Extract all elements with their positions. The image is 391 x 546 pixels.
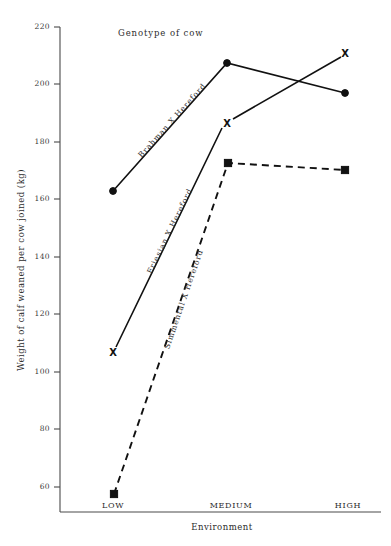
data-point-brahman-low xyxy=(110,188,117,195)
series-label-brahman: Brahman X Hereford xyxy=(136,81,207,159)
series-simmental-x-hereford: Simmental X Hereford xyxy=(110,159,348,497)
y-tick-labels: 220 200 180 160 140 120 100 80 60 xyxy=(34,22,50,491)
chart-figure: 220 200 180 160 140 120 100 80 60 Weight… xyxy=(0,0,391,546)
series-line-simmental xyxy=(114,163,345,494)
y-tick-label-140: 140 xyxy=(34,252,50,261)
x-tick-label-medium: MEDIUM xyxy=(210,501,253,510)
y-tick-label-100: 100 xyxy=(34,367,50,376)
data-point-brahman-high xyxy=(342,90,349,97)
y-tick-label-180: 180 xyxy=(34,137,50,146)
x-tick-label-low: LOW xyxy=(102,501,124,510)
data-point-friesian-high: X xyxy=(341,48,349,59)
data-point-simmental-low xyxy=(110,490,117,497)
data-point-brahman-medium xyxy=(224,60,231,67)
series-friesian-x-hereford: X X X Friesian X Hereford xyxy=(109,48,349,358)
series-label-simmental: Simmental X Hereford xyxy=(162,248,205,350)
data-point-friesian-low: X xyxy=(109,347,117,358)
data-point-simmental-medium xyxy=(224,159,231,166)
y-tick-label-80: 80 xyxy=(40,424,50,433)
y-tick-label-200: 200 xyxy=(34,79,50,88)
x-tick-labels: LOW MEDIUM HIGH xyxy=(102,501,361,510)
chart-title: Genotype of cow xyxy=(118,28,203,38)
data-point-simmental-high xyxy=(341,166,348,173)
x-tick-label-high: HIGH xyxy=(335,501,361,510)
series-line-friesian xyxy=(116,57,341,347)
axes xyxy=(54,27,381,512)
y-axis-title: Weight of calf weaned per cow joined (kg… xyxy=(16,169,26,371)
data-point-friesian-medium: X xyxy=(223,118,231,129)
y-tick-label-220: 220 xyxy=(34,22,50,31)
line-chart: 220 200 180 160 140 120 100 80 60 Weight… xyxy=(0,0,391,546)
y-tick-label-120: 120 xyxy=(34,309,50,318)
y-tick-label-60: 60 xyxy=(40,482,50,491)
series-label-friesian: Friesian X Hereford xyxy=(145,187,194,275)
y-tick-label-160: 160 xyxy=(34,194,50,203)
x-axis-title: Environment xyxy=(191,522,252,532)
